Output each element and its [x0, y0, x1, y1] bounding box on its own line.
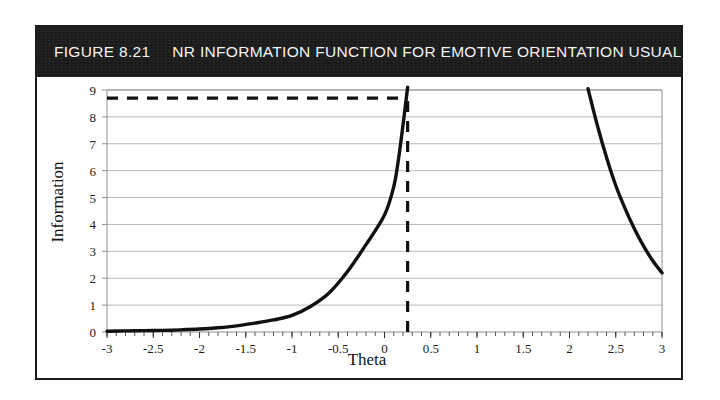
x-tick-label: 1	[474, 341, 481, 356]
y-tick-label: 5	[90, 191, 97, 206]
x-tick-label: -1	[287, 341, 298, 356]
y-tick-label: 3	[90, 244, 97, 259]
x-tick-label: 0.5	[423, 341, 439, 356]
x-tick-label: -2	[194, 341, 205, 356]
x-tick-label: 3	[659, 341, 666, 356]
figure-number-label: FIGURE 8.21	[37, 43, 150, 61]
y-tick-label: 0	[90, 325, 97, 340]
figure-frame: FIGURE 8.21 NR INFORMATION FUNCTION FOR …	[35, 25, 683, 380]
figure-title-bar: FIGURE 8.21 NR INFORMATION FUNCTION FOR …	[37, 27, 681, 77]
information-function-chart: -3-2.5-2-1.5-1-0.500.511.522.53 01234567…	[37, 77, 681, 378]
x-tick-label: -1.5	[235, 341, 256, 356]
figure-root: FIGURE 8.21 NR INFORMATION FUNCTION FOR …	[0, 0, 720, 400]
y-tick-label: 2	[90, 271, 97, 286]
y-tick-label: 1	[90, 298, 97, 313]
figure-caption-label: NR INFORMATION FUNCTION FOR EMOTIVE ORIE…	[150, 43, 681, 61]
x-tick-label: 2	[566, 341, 573, 356]
y-tick-label: 6	[90, 164, 97, 179]
y-axis-title: Information	[48, 161, 67, 243]
x-tick-label: -0.5	[328, 341, 349, 356]
y-tick-label: 8	[90, 110, 97, 125]
y-tick-label: 9	[90, 83, 97, 98]
x-axis-title: Theta	[348, 350, 387, 369]
plot-area: -3-2.5-2-1.5-1-0.500.511.522.53 01234567…	[37, 77, 681, 378]
x-tick-label: -3	[102, 341, 113, 356]
x-tick-label: 1.5	[515, 341, 531, 356]
x-tick-label: -2.5	[143, 341, 164, 356]
y-tick-label: 7	[90, 137, 97, 152]
x-tick-label: 2.5	[608, 341, 624, 356]
plot-background	[37, 77, 681, 378]
y-tick-label: 4	[90, 217, 97, 232]
